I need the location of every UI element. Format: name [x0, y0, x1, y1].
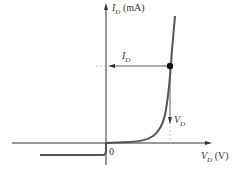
diode-curve — [40, 16, 175, 155]
x-axis-label: VD (V) — [201, 150, 229, 164]
operating-point — [167, 63, 173, 69]
y-axis-arrow-icon — [104, 3, 108, 10]
current-label: ID — [122, 50, 130, 64]
y-axis-label: ID (mA) — [112, 2, 145, 16]
x-axis-arrow-icon — [205, 141, 212, 145]
origin-label: 0 — [109, 146, 114, 157]
current-arrow-head-icon — [108, 64, 115, 68]
voltage-arrow-head-icon — [168, 117, 172, 124]
voltage-label: VD — [174, 114, 185, 128]
